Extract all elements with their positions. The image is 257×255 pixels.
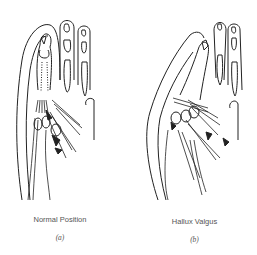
sublabel-b: (b) (130, 235, 257, 244)
sublabel-a: (a) (0, 233, 124, 242)
caption-hallux-valgus: Hallux Valgus (130, 217, 257, 226)
panel-normal-position: Normal Position (a) (0, 0, 128, 255)
hallux-valgus-foot-illustration (128, 0, 257, 215)
caption-normal-position: Normal Position (0, 215, 124, 224)
normal-foot-illustration (0, 0, 128, 215)
panel-hallux-valgus: Hallux Valgus (b) (128, 0, 257, 255)
